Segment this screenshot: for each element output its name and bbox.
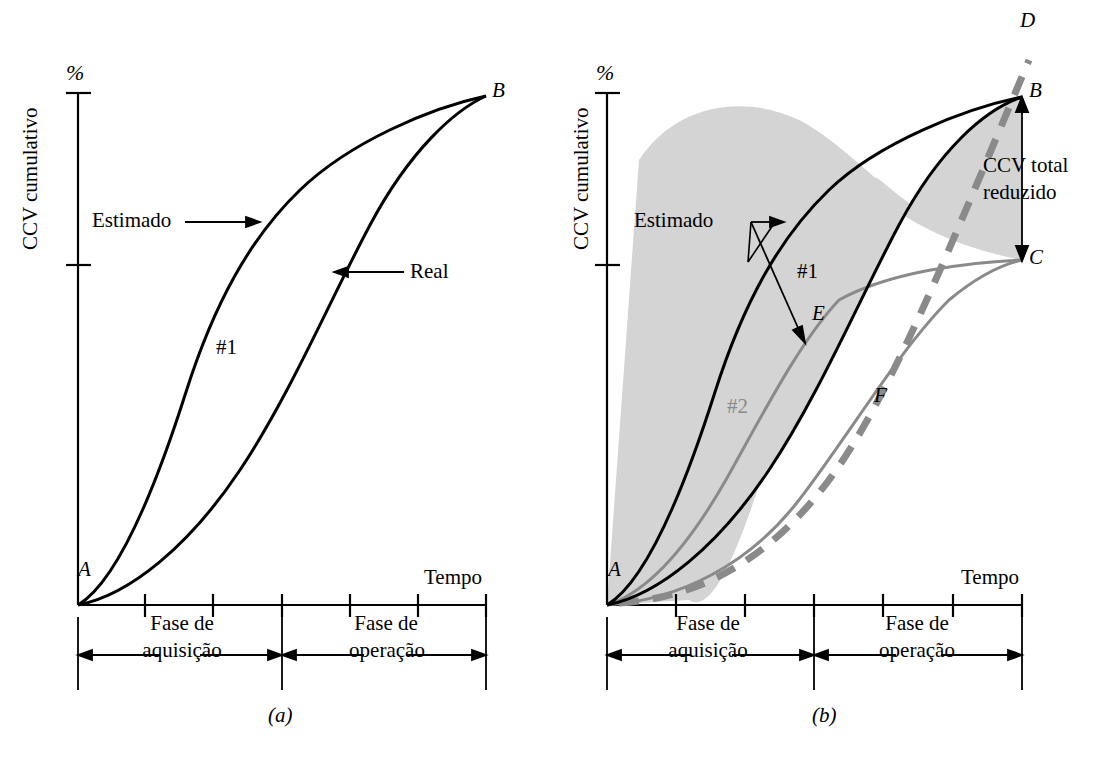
panel-b-y-axis-unit: % bbox=[596, 62, 614, 84]
op-arrow-left-head bbox=[814, 650, 828, 660]
panel-a-caption: (a) bbox=[268, 705, 293, 726]
panel-b-label-region1: #1 bbox=[797, 261, 818, 282]
panel-b-point-F: F bbox=[874, 385, 887, 406]
op-arrow-right-head bbox=[1008, 650, 1022, 660]
ccv-annotation-line1: CCV total bbox=[983, 155, 1068, 176]
panel-b-phase-acquisition-line1: Fase de bbox=[663, 613, 753, 634]
panel-a-phase-operation-line2: operação bbox=[336, 640, 438, 661]
panel-b-label-estimado: Estimado bbox=[634, 210, 713, 231]
panel-b-graphic bbox=[549, 0, 1098, 762]
panel-a-x-axis-title: Tempo bbox=[424, 567, 482, 588]
panel-b-label-region2: #2 bbox=[727, 396, 748, 417]
figure-container: CCV cumulativo % A B Estimado Real #1 Te… bbox=[0, 0, 1098, 762]
panel-a-phase-acquisition-line1: Fase de bbox=[137, 613, 227, 634]
panel-a-y-axis-unit: % bbox=[66, 62, 84, 84]
op-arrow-left-head bbox=[282, 650, 296, 660]
panel-b-caption: (b) bbox=[812, 705, 837, 726]
real-arrowhead bbox=[334, 267, 348, 277]
panel-a-phase-acquisition-line2: aquisição bbox=[130, 640, 234, 661]
acq-arrow-left-head bbox=[607, 650, 621, 660]
panel-a-point-A: A bbox=[78, 559, 91, 580]
panel-b-phase-operation-line1: Fase de bbox=[872, 613, 962, 634]
panel-a-curves bbox=[78, 96, 486, 605]
curve-estimado bbox=[78, 96, 486, 605]
panel-b-y-axis-title: CCV cumulativo bbox=[571, 107, 592, 250]
panel-a-label-real: Real bbox=[410, 261, 448, 282]
panel-b-point-E: E bbox=[812, 303, 825, 324]
estimado-arrowhead bbox=[246, 217, 260, 227]
panel-b-phase-operation-line2: operação bbox=[866, 640, 968, 661]
panel-a-label-region1: #1 bbox=[216, 337, 237, 358]
panel-b-point-C: C bbox=[1029, 247, 1043, 268]
panel-a-point-B: B bbox=[492, 80, 505, 101]
curve-real bbox=[78, 96, 486, 605]
panel-b-phase-acquisition-line2: aquisição bbox=[656, 640, 760, 661]
acq-arrow-left-head bbox=[78, 650, 92, 660]
panel-a-y-axis-title: CCV cumulativo bbox=[20, 107, 41, 250]
panel-b-point-A: A bbox=[608, 559, 621, 580]
panel-b-point-D: D bbox=[1020, 10, 1035, 31]
panel-a-label-estimado: Estimado bbox=[92, 210, 171, 231]
ccv-annotation-line2: reduzido bbox=[983, 182, 1056, 203]
panel-a-graphic bbox=[0, 0, 549, 762]
op-arrow-right-head bbox=[472, 650, 486, 660]
panel-b-x-axis-title: Tempo bbox=[961, 567, 1019, 588]
panel-b-point-B: B bbox=[1029, 80, 1042, 101]
panel-a-phase-operation-line1: Fase de bbox=[341, 613, 431, 634]
